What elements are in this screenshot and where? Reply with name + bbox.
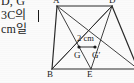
point-G-prime (93, 45, 96, 48)
geometry-figure: A D B E G G′ 2 cm (46, 0, 134, 83)
figure-page: D, G 3C의 cm일 A D B (0, 0, 134, 83)
vertex-label-D: D (109, 0, 116, 5)
vertex-label-A: A (53, 0, 60, 5)
vertex-label-E: E (87, 70, 93, 79)
text-column: D, G 3C의 cm일 (0, 0, 46, 83)
text-line-1: D, G (1, 0, 25, 8)
measure-label-gg-prime: 2 cm (77, 34, 94, 43)
vertex-label-B: B (47, 70, 53, 79)
vertex-label-G-prime: G′ (92, 51, 100, 60)
point-G (77, 45, 80, 48)
edge-D-C (112, 6, 134, 69)
text-line-3: cm일 (1, 23, 27, 36)
edge-A-B (52, 6, 57, 69)
vertex-label-G: G (74, 51, 81, 60)
text-line-2: 3C의 (1, 9, 27, 22)
text-caret (38, 10, 39, 22)
